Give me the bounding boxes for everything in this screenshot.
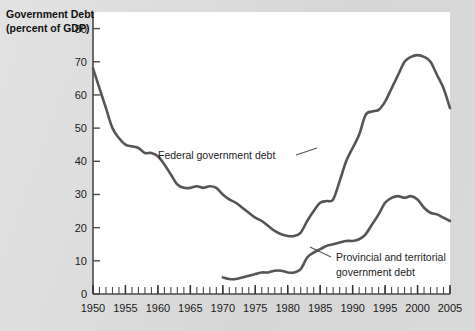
x-tick-label: 1955 xyxy=(113,302,137,314)
x-tick-label: 2000 xyxy=(405,302,429,314)
x-tick-label: 1965 xyxy=(178,302,202,314)
government-debt-line-chart: 01020304050607080 1950195519601965197019… xyxy=(0,0,475,331)
x-tick-label: 1950 xyxy=(81,302,105,314)
y-tick-label: 30 xyxy=(75,188,87,200)
x-tick-label: 1975 xyxy=(243,302,267,314)
y-tick-label: 50 xyxy=(75,122,87,134)
annotation-provincial-label-line-1: Provincial and territorial xyxy=(336,251,446,263)
x-tick-label: 1985 xyxy=(308,302,332,314)
chart-title-line-2: (percent of GDP) xyxy=(6,22,89,34)
annotation-federal-label: Federal government debt xyxy=(158,149,275,161)
x-axis-tick-labels: 1950195519601965197019751980198519901995… xyxy=(81,302,462,314)
y-axis-tick-labels: 01020304050607080 xyxy=(75,23,87,300)
y-tick-label: 0 xyxy=(81,288,87,300)
y-tick-label: 40 xyxy=(75,155,87,167)
y-tick-label: 20 xyxy=(75,222,87,234)
chart-title-line-1: Government Debt xyxy=(6,8,95,20)
x-tick-label: 2005 xyxy=(438,302,462,314)
annotation-provincial-label-line-2: government debt xyxy=(336,266,415,278)
y-tick-label: 70 xyxy=(75,56,87,68)
x-tick-label: 1995 xyxy=(373,302,397,314)
y-tick-label: 10 xyxy=(75,255,87,267)
x-tick-label: 1990 xyxy=(340,302,364,314)
y-tick-label: 60 xyxy=(75,89,87,101)
x-tick-label: 1960 xyxy=(146,302,170,314)
figure-background: 01020304050607080 1950195519601965197019… xyxy=(0,0,475,331)
x-tick-label: 1970 xyxy=(211,302,235,314)
x-tick-label: 1980 xyxy=(275,302,299,314)
